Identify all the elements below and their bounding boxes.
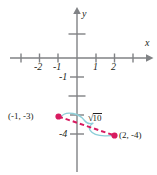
x-tick-label-1: 1 xyxy=(93,62,98,72)
y-tick-label--4: -4 xyxy=(59,129,67,139)
point-label-a: (-1, -3) xyxy=(8,112,34,121)
x-axis-arrowhead xyxy=(146,54,154,62)
distance-annotation: √10 xyxy=(88,113,102,123)
axes-group xyxy=(10,7,154,172)
y-axis-arrowhead xyxy=(73,7,81,14)
coordinate-plane-figure: x y -2 -1 1 2 -1 -4 (-1, -3) (2, -4) √10 xyxy=(0,0,157,175)
point-marker-b xyxy=(111,132,117,138)
y-axis-label: y xyxy=(82,9,86,19)
y-tick-label--1: -1 xyxy=(59,72,67,82)
point-label-b: (2, -4) xyxy=(119,131,142,140)
graph-canvas xyxy=(0,0,157,175)
point-marker-a xyxy=(55,113,61,119)
radicand: 10 xyxy=(93,113,102,123)
x-tick-label-2: 2 xyxy=(111,62,116,72)
x-tick-label--2: -2 xyxy=(34,62,42,72)
x-axis-label: x xyxy=(145,38,149,48)
